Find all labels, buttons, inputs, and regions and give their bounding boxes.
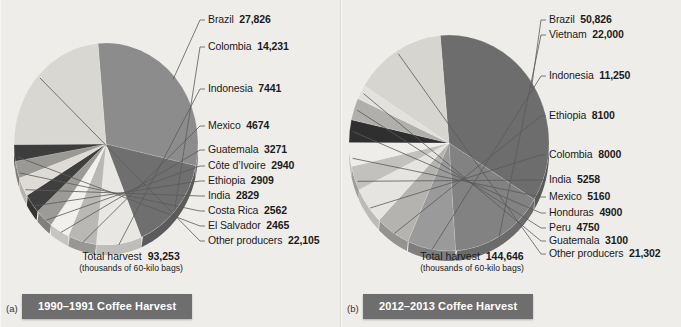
total-units-a: (thousands of 60-kilo bags) (36, 262, 226, 274)
slice-label-costa-rica: Costa Rica 2562 (208, 205, 287, 216)
total-label-b: Total harvest (420, 250, 480, 262)
slice-label-name: El Salvador (208, 219, 261, 231)
total-value-a: 93,253 (148, 250, 180, 262)
figure-panel-b: Brazil 50,826Vietnam 22,000Indonesia 11,… (341, 0, 681, 327)
slice-label-value: 8000 (598, 148, 621, 160)
slice-label-vietnam: Vietnam 22,000 (549, 29, 624, 40)
slice-label-name: Brazil (208, 13, 234, 25)
slice-label-guatemala: Guatemala 3271 (208, 144, 287, 155)
slice-label-value: 2562 (264, 204, 287, 216)
slice-label-name: Indonesia (208, 82, 253, 94)
slice-label-other-producers: Other producers 22,105 (208, 235, 320, 246)
slice-label-mexico: Mexico 5160 (549, 191, 610, 202)
slice-label-name: Peru (549, 221, 571, 233)
total-harvest-a: Total harvest 93,253 (thousands of 60-ki… (36, 250, 226, 274)
slice-label-name: Ethiopia (208, 174, 245, 186)
slice-label-mexico: Mexico 4674 (208, 120, 269, 131)
slice-label-el-salvador: El Salvador 2465 (208, 220, 289, 231)
slice-label-value: 22,000 (592, 28, 624, 40)
slice-label-name: Other producers (208, 234, 282, 246)
slice-label-value: 21,302 (629, 247, 661, 259)
slice-label-name: Colombia (208, 40, 252, 52)
slice-label-guatemala: Guatemala 3100 (549, 235, 628, 246)
caption-b: 2012–2013 Coffee Harvest (363, 294, 533, 319)
slice-label-name: Mexico (549, 190, 582, 202)
pie-svg (346, 32, 552, 264)
slice-label-india: India 2829 (208, 190, 259, 201)
slice-label-value: 2909 (251, 174, 274, 186)
slice-label-name: Vietnam (549, 28, 587, 40)
total-label-a: Total harvest (82, 250, 142, 262)
slice-label-value: 7441 (258, 82, 281, 94)
slice-label-value: 3100 (605, 234, 628, 246)
slice-label-name: Guatemala (549, 234, 599, 246)
slice-label-value: 2940 (271, 159, 294, 171)
figure-panel-a: Brazil 27,826Colombia 14,231Indonesia 74… (0, 0, 340, 327)
panel-key-b: (b) (347, 303, 359, 314)
total-units-b: (thousands of 60-kilo bags) (377, 262, 567, 274)
slice-label-colombia: Colombia 14,231 (208, 41, 289, 52)
slice-label-brazil: Brazil 50,826 (549, 14, 612, 25)
slice-label-name: Mexico (208, 119, 241, 131)
slice-label-value: 5258 (577, 173, 600, 185)
slice-label-name: Guatemala (208, 143, 258, 155)
slice-label-name: India (208, 189, 230, 201)
slice-label-value: 5160 (587, 190, 610, 202)
slice-label-indonesia: Indonesia 11,250 (549, 70, 630, 81)
slice-label-value: 4750 (576, 221, 599, 233)
caption-a: 1990–1991 Coffee Harvest (22, 294, 192, 319)
slice-label-name: Honduras (549, 206, 594, 218)
pie-slice-other-producers (14, 43, 106, 144)
slice-label-peru: Peru 4750 (549, 222, 599, 233)
slice-label-colombia: Colombia 8000 (549, 149, 621, 160)
slice-label-name: Côte d’Ivoire (208, 159, 266, 171)
slice-label-value: 14,231 (257, 40, 289, 52)
slice-label-value: 3271 (264, 143, 287, 155)
slice-label-brazil: Brazil 27,826 (208, 14, 271, 25)
slice-label-honduras: Honduras 4900 (549, 207, 622, 218)
slice-label-name: Brazil (549, 13, 575, 25)
pie-slices (14, 43, 198, 245)
slice-label-value: 11,250 (599, 69, 630, 81)
slice-label-name: Indonesia (549, 69, 594, 81)
slice-label-name: Ethiopia (549, 109, 586, 121)
slice-label-name: Colombia (549, 148, 593, 160)
slice-label-value: 2465 (266, 219, 289, 231)
pie-chart-b (346, 32, 552, 264)
total-value-b: 144,646 (486, 250, 524, 262)
slice-label-value: 22,105 (288, 234, 320, 246)
slice-label-value: 27,826 (239, 13, 271, 25)
pie-slices (349, 35, 549, 251)
slice-label-indonesia: Indonesia 7441 (208, 83, 281, 94)
slice-label-india: India 5258 (549, 174, 600, 185)
slice-label-value: 2829 (236, 189, 259, 201)
slice-label-ethiopia: Ethiopia 8100 (549, 110, 615, 121)
slice-label-name: Costa Rica (208, 204, 258, 216)
slice-label-value: 8100 (592, 109, 615, 121)
slice-label-ethiopia: Ethiopia 2909 (208, 175, 274, 186)
slice-label-c-te-d-ivoire: Côte d’Ivoire 2940 (208, 160, 294, 171)
slice-label-name: India (549, 173, 571, 185)
slice-label-value: 4900 (599, 206, 622, 218)
pie-chart-a (11, 40, 201, 258)
total-harvest-b: Total harvest 144,646 (thousands of 60-k… (377, 250, 567, 274)
slice-label-value: 50,826 (580, 13, 612, 25)
pie-svg (11, 40, 201, 258)
slice-label-value: 4674 (246, 119, 269, 131)
panel-key-a: (a) (6, 303, 18, 314)
